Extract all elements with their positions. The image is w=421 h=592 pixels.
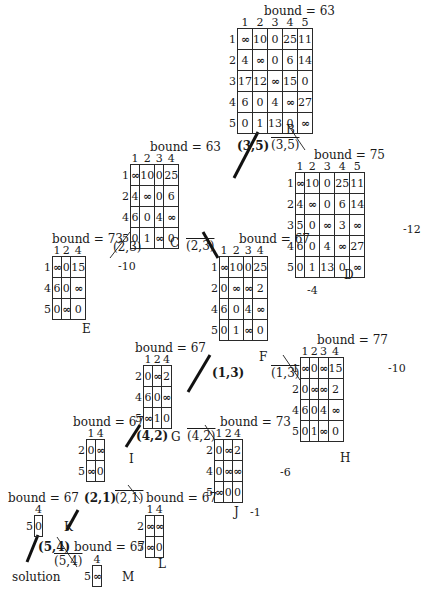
cell: 0 <box>220 320 229 341</box>
matrix-f: 1 2 3 4 1 ∞ 10 0 25 2 0 ∞ ∞ 2 4 6 0 4 ∞ … <box>211 245 268 341</box>
cell: 14 <box>350 194 365 215</box>
cell: ∞ <box>229 278 244 299</box>
cell: ∞ <box>162 387 171 408</box>
cell: 27 <box>298 92 313 113</box>
cell: 0 <box>320 194 335 215</box>
row-header: 5 <box>78 461 87 482</box>
reduction-h: -10 <box>388 362 406 375</box>
cell: 25 <box>335 173 350 194</box>
col-header: 2 <box>62 245 71 257</box>
row-header: 5 <box>229 113 238 134</box>
row-header: 2 <box>122 186 131 207</box>
cell: 27 <box>350 236 365 257</box>
edge-label-f-g: (1,3) <box>212 366 244 380</box>
cell: 6 <box>131 207 140 228</box>
row-header: 2 <box>211 278 220 299</box>
cell: ∞ <box>224 461 233 482</box>
cell: ∞ <box>319 379 328 400</box>
col-header: 3 <box>244 245 253 257</box>
col-header: 4 <box>162 354 171 366</box>
cell: 0 <box>220 278 229 299</box>
cell: ∞ <box>220 257 229 278</box>
node-label-b: B <box>286 123 295 137</box>
cell: ∞ <box>53 257 62 278</box>
cell: 15 <box>71 257 86 278</box>
node-label-g: G <box>171 430 181 444</box>
cell: 2 <box>328 379 343 400</box>
cell: ∞ <box>253 299 268 320</box>
cell: ∞ <box>350 215 365 236</box>
cell: 0 <box>320 173 335 194</box>
cell: 10 <box>229 257 244 278</box>
col-header: 4 <box>328 346 343 358</box>
cell: ∞ <box>328 400 343 421</box>
col-header: 2 <box>153 354 162 366</box>
cell: ∞ <box>233 461 242 482</box>
cell: 2 <box>253 278 268 299</box>
row-header: 1 <box>211 257 220 278</box>
row-header: 1 <box>292 358 301 379</box>
node-label-f: F <box>259 350 267 364</box>
matrix-h: 1 2 3 4 1 ∞ 0 ∞ 15 2 0 ∞ ∞ 2 4 6 0 4 ∞ 5… <box>292 346 344 442</box>
cell: 11 <box>298 29 313 50</box>
col-header: 1 <box>131 153 140 165</box>
edge-label-i-k: (2,1) <box>84 491 116 505</box>
row-header: 1 <box>122 165 131 186</box>
cell: 6 <box>53 278 62 299</box>
col-header: 4 <box>253 245 268 257</box>
cell: 0 <box>268 50 283 71</box>
cell: ∞ <box>335 236 350 257</box>
edge-k-solution <box>27 535 38 562</box>
matrix-e: 1 2 4 1 ∞ 0 15 4 6 0 ∞ 5 0 ∞ 0 <box>44 245 86 320</box>
cell: 0 <box>215 461 224 482</box>
col-header: 1 <box>296 161 305 173</box>
cell: ∞ <box>268 71 283 92</box>
cell: ∞ <box>93 566 102 587</box>
cell: ∞ <box>71 278 86 299</box>
cell: 1 <box>305 257 320 278</box>
cell: 6 <box>144 387 153 408</box>
row-header: 2 <box>229 50 238 71</box>
cell: 25 <box>283 29 298 50</box>
cell: ∞ <box>131 165 140 186</box>
node-label-m: M <box>122 570 134 584</box>
node-label-c: C <box>170 236 179 250</box>
col-header: 4 <box>164 153 179 165</box>
col-header: 2 <box>253 17 268 29</box>
cell: ∞ <box>244 320 253 341</box>
cell: 2 <box>233 440 242 461</box>
cell: ∞ <box>140 186 155 207</box>
matrix-i: 1 4 2 0 ∞ 5 ∞ 0 <box>78 428 105 482</box>
cell: ∞ <box>283 92 298 113</box>
col-header: 4 <box>96 428 105 440</box>
col-header: 5 <box>298 17 313 29</box>
cell: 1 <box>310 421 319 442</box>
cell: 4 <box>238 50 253 71</box>
cell: 0 <box>233 482 242 503</box>
col-header: 1 <box>238 17 253 29</box>
row-header: 5 <box>44 299 53 320</box>
row-header: 1 <box>229 29 238 50</box>
col-header: 2 <box>224 428 233 440</box>
col-header: 3 <box>155 153 164 165</box>
cell: 3 <box>335 215 350 236</box>
cell: ∞ <box>244 278 253 299</box>
matrix-d: 1 2 3 4 5 1 ∞ 10 0 25 11 2 4 ∞ 0 6 14 3 … <box>287 161 365 278</box>
col-header: 1 <box>87 428 96 440</box>
row-header: 2 <box>137 516 146 537</box>
reduction-d: -12 <box>403 223 421 236</box>
row-header: 5 <box>292 421 301 442</box>
row-header: 5 <box>287 257 296 278</box>
cell: 4 <box>155 207 164 228</box>
cell: 0 <box>35 516 43 537</box>
cell: ∞ <box>164 207 179 228</box>
col-header: 3 <box>320 161 335 173</box>
col-header: 2 <box>229 245 244 257</box>
cell: ∞ <box>224 440 233 461</box>
bound-h: bound = 77 <box>317 333 388 347</box>
node-label-d: D <box>344 268 354 282</box>
reduction-e: -10 <box>118 260 136 273</box>
edge-label-k-m: (5,4) <box>54 554 82 568</box>
row-header: 3 <box>229 71 238 92</box>
col-header: 4 <box>71 245 86 257</box>
